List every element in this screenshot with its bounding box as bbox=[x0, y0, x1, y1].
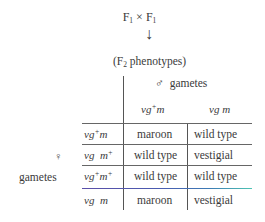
horizontal-rule-1 bbox=[82, 123, 252, 124]
down-arrow-icon: ↓ bbox=[145, 26, 153, 42]
cell-r4-c2: vestigial bbox=[194, 194, 233, 206]
cross-operator: × bbox=[136, 10, 143, 24]
male-gametes-label: ♂gametes bbox=[155, 77, 207, 89]
vertical-divider-2 bbox=[187, 123, 188, 210]
male-symbol-icon: ♂ bbox=[155, 77, 164, 89]
parent1: F1 bbox=[123, 10, 133, 24]
cell-r3-c2: wild type bbox=[194, 170, 237, 182]
cell-r3-c1: wild type bbox=[134, 170, 177, 182]
female-symbol-icon: ♀ bbox=[54, 150, 62, 162]
cell-r1-c2: wild type bbox=[194, 128, 237, 140]
female-gametes-label: gametes bbox=[19, 171, 57, 183]
parent2: F1 bbox=[146, 10, 156, 24]
f2-phenotypes-label: (F2 phenotypes) bbox=[113, 55, 186, 67]
column-header-2: vg m bbox=[209, 103, 230, 115]
horizontal-rule-3 bbox=[82, 165, 252, 166]
horizontal-rule-highlight bbox=[82, 188, 252, 189]
horizontal-rule-2 bbox=[82, 144, 252, 145]
row-gamete-4: vg m bbox=[84, 194, 108, 206]
row-gamete-2: vg m+ bbox=[84, 149, 113, 161]
cross-notation: F1 × F1 bbox=[0, 10, 265, 25]
row-gamete-3: vg+m+ bbox=[84, 170, 112, 182]
cell-r4-c1: maroon bbox=[137, 194, 172, 206]
vertical-divider-1 bbox=[123, 76, 124, 210]
cell-r2-c1: wild type bbox=[134, 149, 177, 161]
row-gamete-1: vg+m bbox=[84, 128, 107, 140]
column-header-1: vg+m bbox=[141, 103, 164, 115]
cell-r1-c1: maroon bbox=[137, 128, 172, 140]
cell-r2-c2: vestigial bbox=[194, 149, 233, 161]
